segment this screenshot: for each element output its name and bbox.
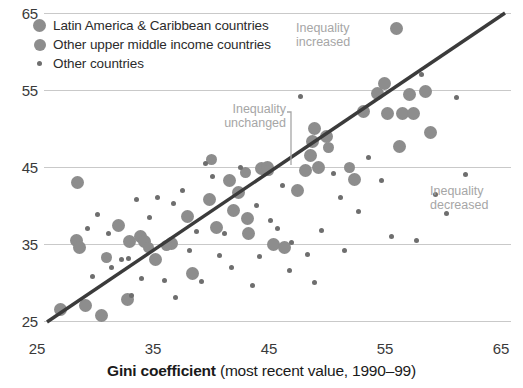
gini-scatter-chart: 65 55 45 35 25 25 35 45 55 65 Latin Amer… <box>0 0 523 388</box>
annotation-inequality-unchanged: Inequality unchanged <box>208 103 286 130</box>
annotation-inequality-increased: Inequality increased <box>296 22 350 49</box>
annotation-unchanged-line1: Inequality <box>208 103 286 117</box>
x-axis-title-rest: (most recent value, 1990–99) <box>216 362 416 379</box>
legend-item-upper-middle-income[interactable]: Other upper middle income countries <box>33 35 271 54</box>
legend-label-upper-middle-income: Other upper middle income countries <box>53 37 271 52</box>
x-axis-title: Gini coefficient (most recent value, 199… <box>0 362 523 380</box>
annotation-inequality-decreased: Inequality decreased <box>430 185 488 212</box>
annotation-increased-line2: increased <box>296 36 350 50</box>
small-dot-marker-icon <box>37 61 42 66</box>
annotation-unchanged-line2: unchanged <box>208 117 286 131</box>
legend-item-lac[interactable]: Latin America & Caribbean countries <box>33 16 271 35</box>
annotation-decreased-line1: Inequality <box>430 185 488 199</box>
chart-legend: Latin America & Caribbean countries Othe… <box>33 16 271 73</box>
annotation-decreased-line2: decreased <box>430 199 488 213</box>
x-axis-title-bold: Gini coefficient <box>107 362 216 379</box>
legend-label-lac: Latin America & Caribbean countries <box>53 18 269 33</box>
annotation-increased-line1: Inequality <box>296 22 350 36</box>
legend-label-other: Other countries <box>53 56 144 71</box>
large-circle-marker-icon <box>33 19 46 32</box>
legend-item-other[interactable]: Other countries <box>33 54 271 73</box>
medium-circle-marker-icon <box>34 39 46 51</box>
